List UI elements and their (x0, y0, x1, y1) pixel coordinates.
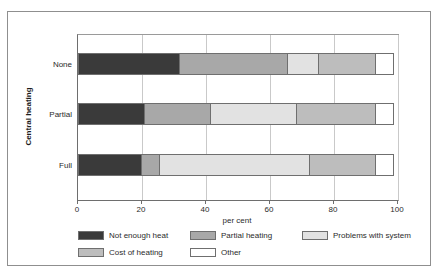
bar-segment (375, 103, 394, 125)
bar-segment (78, 103, 145, 125)
legend-swatch (190, 231, 216, 240)
x-tick-80 (333, 200, 334, 204)
x-tick-label-0: 0 (75, 205, 79, 214)
x-tick-20 (141, 200, 142, 204)
bar-segment (141, 154, 160, 176)
legend-item-partial-heating[interactable]: Partial heating (190, 228, 302, 243)
y-axis-title-text: Central heating (24, 87, 33, 145)
legend-label: Not enough heat (109, 231, 168, 240)
x-tick-label-20: 20 (137, 205, 146, 214)
legend-label: Other (221, 248, 241, 257)
x-tick-0 (77, 200, 78, 204)
category-label-partial: Partial (49, 110, 72, 119)
bar-partial: Partial (78, 103, 393, 125)
bar-none: None (78, 53, 393, 75)
legend-item-other[interactable]: Other (190, 245, 302, 260)
x-tick-label-40: 40 (201, 205, 210, 214)
figure-caption-ghost (0, 0, 439, 11)
bar-segment (296, 103, 376, 125)
bar-segment (78, 154, 142, 176)
bar-segment (179, 53, 288, 75)
x-axis-title: per cent (77, 216, 397, 225)
bar-segment (144, 103, 211, 125)
legend-swatch (78, 231, 104, 240)
gridline-100 (398, 35, 399, 200)
bar-segment (318, 53, 376, 75)
figure-frame: Central heating NonePartialFull per cent… (7, 11, 431, 266)
bar-full: Full (78, 154, 393, 176)
legend-label: Partial heating (221, 231, 272, 240)
x-axis-line (77, 200, 398, 201)
bar-segment (375, 154, 394, 176)
bar-segment (78, 53, 180, 75)
bar-segment (309, 154, 376, 176)
legend-item-cost-of-heating[interactable]: Cost of heating (78, 245, 190, 260)
x-tick-label-100: 100 (390, 205, 403, 214)
x-tick-60 (269, 200, 270, 204)
legend-item-not-enough-heat[interactable]: Not enough heat (78, 228, 190, 243)
y-axis-title: Central heating (22, 34, 34, 199)
chart-legend: Not enough heatPartial heatingProblems w… (78, 228, 418, 262)
x-tick-label-60: 60 (265, 205, 274, 214)
legend-swatch (190, 248, 216, 257)
legend-item-problems-with-system[interactable]: Problems with system (302, 228, 418, 243)
legend-label: Cost of heating (109, 248, 163, 257)
x-tick-label-80: 80 (329, 205, 338, 214)
x-tick-40 (205, 200, 206, 204)
legend-swatch (302, 231, 328, 240)
category-label-none: None (53, 60, 72, 69)
bar-segment (375, 53, 394, 75)
bar-segment (287, 53, 319, 75)
legend-label: Problems with system (333, 231, 411, 240)
x-tick-100 (397, 200, 398, 204)
plot-area: NonePartialFull (77, 34, 399, 201)
legend-swatch (78, 248, 104, 257)
category-label-full: Full (59, 161, 72, 170)
bar-segment (210, 103, 296, 125)
bar-segment (159, 154, 309, 176)
